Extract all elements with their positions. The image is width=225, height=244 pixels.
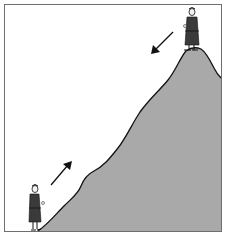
mountain-monk-diagram [0,0,225,244]
arrow-down-slope-icon [151,32,173,54]
monk-bottom [29,185,45,231]
arrow-up-slope-icon [51,161,72,185]
monk-top [184,8,200,51]
mountain [38,48,221,231]
